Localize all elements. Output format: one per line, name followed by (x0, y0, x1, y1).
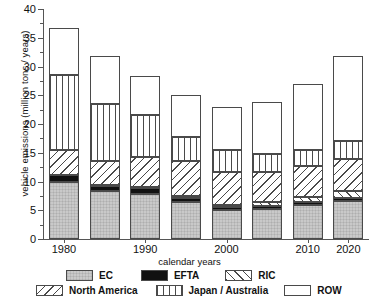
bar-segment-row (293, 84, 323, 150)
bar-segment-north-america (212, 172, 242, 205)
legend-row-2: North AmericaJapan / AustraliaROW (36, 283, 376, 298)
legend-label: Japan / Australia (189, 285, 269, 296)
bar (171, 95, 201, 239)
bar-segment-north-america (333, 159, 363, 191)
bar (293, 84, 323, 239)
y-tick-label: 15 (2, 153, 36, 154)
legend-row-1: ECEFTARIC (66, 268, 376, 283)
x-axis-title: calendar years (0, 256, 379, 267)
legend-label: ROW (317, 285, 341, 296)
legend-item-north-america: North America (36, 285, 138, 296)
bar-segment-ec (293, 205, 323, 239)
bar-segment-north-america (49, 150, 79, 174)
legend-swatch-japan-australia (156, 285, 183, 296)
chart-legend: ECEFTARIC North AmericaJapan / Australia… (36, 268, 376, 298)
bar (130, 76, 160, 239)
legend-label: EC (99, 270, 113, 281)
bar-segment-north-america (171, 161, 201, 196)
bar (90, 56, 120, 239)
x-axis-line (43, 239, 369, 240)
bar-segment-ric (293, 197, 323, 202)
bar-segment-ric (333, 191, 363, 198)
stacked-bar-chart: vehicle emissions (million tons / years)… (0, 0, 379, 301)
bar-segment-row (212, 107, 242, 150)
bar-segment-ec (252, 209, 282, 239)
legend-swatch-efta (141, 270, 168, 281)
legend-label: RIC (258, 270, 275, 281)
bar-segment-ric (212, 205, 242, 207)
bar-segment-japan-australia (171, 137, 201, 162)
bar (49, 28, 79, 239)
bar-segment-row (90, 56, 120, 104)
bar-group (44, 9, 369, 239)
bar-segment-japan-australia (90, 104, 120, 162)
y-tick-label: 40 (2, 9, 36, 10)
bar-segment-japan-australia (49, 75, 79, 151)
y-tick-label: 35 (2, 38, 36, 39)
bar-segment-efta (49, 175, 79, 182)
legend-label: North America (69, 285, 138, 296)
y-tick-label: 30 (2, 67, 36, 68)
bar-segment-north-america (90, 161, 120, 185)
bar-segment-ec (333, 201, 363, 239)
y-tick-label: 0 (2, 239, 36, 240)
bar-segment-row (333, 56, 363, 141)
y-tick-label: 20 (2, 124, 36, 125)
x-tick-label: 1980 (38, 243, 90, 255)
bar-segment-north-america (252, 172, 282, 202)
bar-segment-japan-australia (252, 154, 282, 172)
legend-item-efta: EFTA (141, 270, 199, 281)
bar-segment-japan-australia (293, 150, 323, 166)
legend-swatch-row (284, 285, 311, 296)
bar-segment-japan-australia (333, 141, 363, 159)
x-tick-label: 2020 (322, 243, 374, 255)
legend-swatch-ec (66, 270, 93, 281)
bar-segment-ec (130, 194, 160, 239)
y-tick-label: 5 (2, 210, 36, 211)
bar-segment-efta (212, 207, 242, 210)
bar-segment-efta (333, 198, 363, 201)
bar (212, 107, 242, 239)
bar-segment-efta (171, 198, 201, 202)
bar-segment-japan-australia (130, 115, 160, 156)
y-tick-label: 25 (2, 95, 36, 96)
bar-segment-japan-australia (212, 150, 242, 171)
bar-segment-efta (90, 186, 120, 191)
bar-segment-efta (293, 202, 323, 205)
bar-segment-ec (49, 182, 79, 239)
legend-item-row: ROW (284, 285, 341, 296)
legend-label: EFTA (174, 270, 199, 281)
bar-segment-row (252, 102, 282, 154)
legend-item-japan-australia: Japan / Australia (156, 285, 269, 296)
bar-segment-row (49, 28, 79, 75)
bar-segment-ec (212, 210, 242, 239)
x-tick-label: 2000 (201, 243, 253, 255)
y-tick-mark (38, 239, 44, 240)
legend-item-ec: EC (66, 270, 113, 281)
bar (333, 56, 363, 239)
bar-segment-ec (171, 202, 201, 239)
bar-segment-row (130, 76, 160, 115)
legend-swatch-ric (225, 270, 252, 281)
bar (252, 102, 282, 239)
bar-segment-ric (171, 196, 201, 198)
bar-segment-row (171, 95, 201, 136)
bar-segment-ric (252, 202, 282, 205)
y-tick-label: 10 (2, 182, 36, 183)
bar-segment-ec (90, 191, 120, 239)
bar-segment-north-america (130, 157, 160, 187)
legend-item-ric: RIC (225, 270, 275, 281)
bar-segment-north-america (293, 166, 323, 197)
legend-swatch-north-america (36, 285, 63, 296)
x-tick-label: 1990 (119, 243, 171, 255)
bar-segment-efta (252, 206, 282, 209)
bar-segment-efta (130, 188, 160, 194)
